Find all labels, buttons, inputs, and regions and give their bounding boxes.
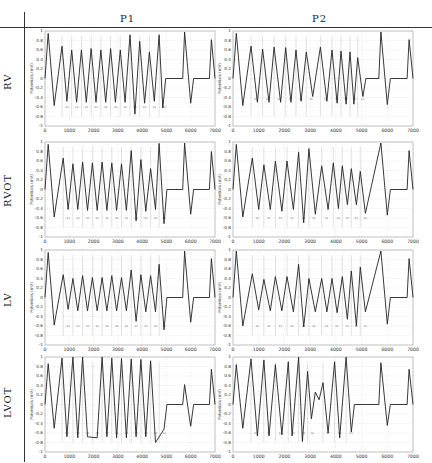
svg-text:0: 0 xyxy=(44,347,47,352)
svg-text:3000: 3000 xyxy=(304,347,316,352)
svg-text:4000: 4000 xyxy=(136,454,148,459)
svg-text:S1: S1 xyxy=(337,217,341,220)
svg-text:-1: -1 xyxy=(227,234,232,239)
svg-text:0.8: 0.8 xyxy=(224,364,231,369)
svg-text:-0.6: -0.6 xyxy=(35,215,44,220)
svg-text:6000: 6000 xyxy=(185,454,197,459)
svg-text:0.4: 0.4 xyxy=(36,276,43,281)
svg-text:S1: S1 xyxy=(105,217,109,220)
svg-text:3000: 3000 xyxy=(112,128,124,133)
svg-text:-0.6: -0.6 xyxy=(35,104,44,109)
svg-text:0.6: 0.6 xyxy=(224,373,231,378)
svg-text:-0.8: -0.8 xyxy=(35,225,44,230)
svg-text:2000: 2000 xyxy=(279,128,291,133)
svg-text:-0.6: -0.6 xyxy=(223,104,232,109)
plot-lvot-p2: 0100020003000400050006000700010.80.60.40… xyxy=(233,357,413,460)
svg-text:1: 1 xyxy=(228,139,231,144)
svg-text:0: 0 xyxy=(40,187,43,192)
svg-text:0.2: 0.2 xyxy=(224,66,231,71)
plot-rv-p2: 0100020003000400050006000700010.80.60.40… xyxy=(233,31,413,134)
row-label-lvot: LVOT xyxy=(2,380,22,424)
svg-text:S1: S1 xyxy=(153,106,157,109)
svg-text:1: 1 xyxy=(228,247,231,252)
svg-text:0: 0 xyxy=(40,295,43,300)
svg-text:0.6: 0.6 xyxy=(224,158,231,163)
svg-text:Potentials (mV): Potentials (mV) xyxy=(217,282,222,313)
svg-text:7000: 7000 xyxy=(209,347,221,352)
svg-text:7000: 7000 xyxy=(407,347,419,352)
svg-text:S1: S1 xyxy=(86,325,90,328)
svg-text:0: 0 xyxy=(44,454,47,459)
svg-text:-0.2: -0.2 xyxy=(223,85,232,90)
svg-text:-1: -1 xyxy=(227,123,232,128)
svg-text:4000: 4000 xyxy=(330,128,342,133)
svg-text:S1: S1 xyxy=(256,325,260,328)
svg-text:4000: 4000 xyxy=(330,347,342,352)
svg-text:0: 0 xyxy=(228,76,231,81)
svg-text:6000: 6000 xyxy=(185,239,197,244)
svg-text:S1: S1 xyxy=(364,217,368,220)
svg-text:-0.4: -0.4 xyxy=(223,206,232,211)
svg-text:6000: 6000 xyxy=(381,347,393,352)
svg-text:1: 1 xyxy=(228,354,231,359)
svg-text:S1: S1 xyxy=(346,217,350,220)
svg-text:6000: 6000 xyxy=(185,347,197,352)
svg-text:5000: 5000 xyxy=(356,347,368,352)
svg-text:S1: S1 xyxy=(312,325,316,328)
svg-text:-0.2: -0.2 xyxy=(223,411,232,416)
plot-rv-p1: 0100020003000400050006000700010.80.60.40… xyxy=(45,31,215,134)
svg-text:S1: S1 xyxy=(312,217,316,220)
svg-text:S1: S1 xyxy=(144,217,148,220)
svg-text:S1: S1 xyxy=(125,217,129,220)
svg-text:S1: S1 xyxy=(94,106,98,109)
svg-text:0: 0 xyxy=(40,402,43,407)
svg-text:S1: S1 xyxy=(290,325,294,328)
svg-text:6000: 6000 xyxy=(381,454,393,459)
svg-text:1: 1 xyxy=(40,28,43,33)
svg-text:0: 0 xyxy=(228,402,231,407)
svg-text:-1: -1 xyxy=(39,234,44,239)
svg-text:7000: 7000 xyxy=(209,239,221,244)
svg-text:-0.4: -0.4 xyxy=(35,95,44,100)
svg-text:2000: 2000 xyxy=(279,454,291,459)
svg-text:3000: 3000 xyxy=(304,454,316,459)
svg-text:S1: S1 xyxy=(335,325,339,328)
svg-text:2000: 2000 xyxy=(88,128,100,133)
svg-text:S1: S1 xyxy=(125,325,129,328)
svg-text:S1: S1 xyxy=(267,325,271,328)
svg-text:-0.6: -0.6 xyxy=(223,323,232,328)
svg-text:-0.2: -0.2 xyxy=(35,411,44,416)
svg-text:3000: 3000 xyxy=(304,128,316,133)
row-label-rv: RV xyxy=(2,62,22,102)
svg-text:S1: S1 xyxy=(115,325,119,328)
svg-text:0: 0 xyxy=(44,239,47,244)
svg-text:5000: 5000 xyxy=(161,347,173,352)
svg-text:1000: 1000 xyxy=(253,128,265,133)
svg-text:7000: 7000 xyxy=(209,128,221,133)
svg-text:S1: S1 xyxy=(86,432,90,435)
svg-text:5000: 5000 xyxy=(356,128,368,133)
svg-text:0: 0 xyxy=(228,187,231,192)
svg-text:1: 1 xyxy=(40,139,43,144)
svg-text:0.4: 0.4 xyxy=(36,168,43,173)
svg-text:-0.8: -0.8 xyxy=(223,225,232,230)
svg-text:0.2: 0.2 xyxy=(36,177,43,182)
svg-text:-0.4: -0.4 xyxy=(35,314,44,319)
svg-text:S1: S1 xyxy=(96,217,100,220)
svg-text:1000: 1000 xyxy=(63,347,75,352)
svg-text:0.6: 0.6 xyxy=(36,158,43,163)
svg-text:3000: 3000 xyxy=(112,454,124,459)
svg-text:4000: 4000 xyxy=(330,239,342,244)
svg-text:0: 0 xyxy=(232,239,235,244)
svg-text:-0.4: -0.4 xyxy=(223,95,232,100)
svg-text:0.6: 0.6 xyxy=(224,266,231,271)
svg-text:5000: 5000 xyxy=(356,454,368,459)
svg-text:5000: 5000 xyxy=(356,239,368,244)
svg-text:Potentials (mV): Potentials (mV) xyxy=(217,174,222,205)
svg-text:0.6: 0.6 xyxy=(36,266,43,271)
svg-text:-0.6: -0.6 xyxy=(35,323,44,328)
svg-text:S1: S1 xyxy=(279,217,283,220)
svg-text:1: 1 xyxy=(40,354,43,359)
svg-text:0: 0 xyxy=(44,128,47,133)
svg-text:-0.2: -0.2 xyxy=(35,304,44,309)
